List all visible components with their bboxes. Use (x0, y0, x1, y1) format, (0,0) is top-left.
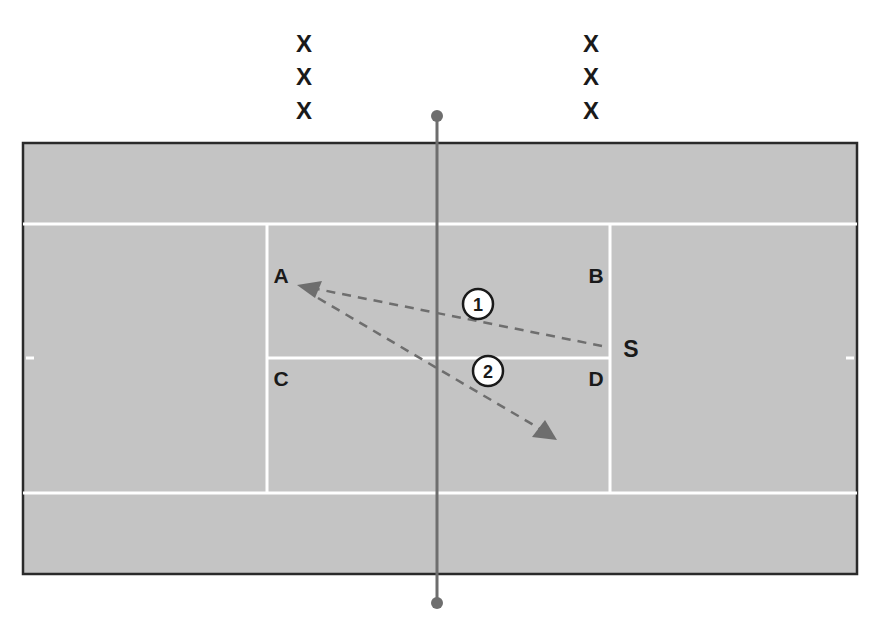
player-x-right-3: X (583, 97, 599, 124)
player-x-right-2: X (583, 63, 599, 90)
diagram-labels: X X X X X X A B C D S 1 2 (0, 0, 874, 619)
label-b: B (588, 264, 603, 287)
label-d: D (588, 367, 603, 390)
player-x-left-2: X (296, 63, 312, 90)
label-a: A (273, 264, 288, 287)
player-x-left-3: X (296, 97, 312, 124)
shot-2-number: 2 (483, 362, 493, 382)
label-s-server: S (623, 336, 638, 362)
player-x-left-1: X (296, 30, 312, 57)
player-x-right-1: X (583, 30, 599, 57)
label-c: C (273, 367, 288, 390)
shot-1-number: 1 (473, 295, 483, 315)
